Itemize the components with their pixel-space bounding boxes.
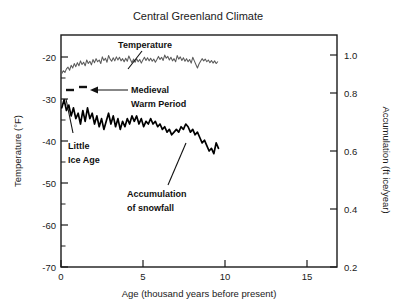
x-axis-ticks — [61, 260, 307, 267]
ytick-label: -40 — [42, 136, 56, 147]
left-axis-ticks — [61, 57, 68, 267]
chart-canvas: Central Greenland Climate -20 -30 -40 -5… — [0, 0, 395, 308]
ytick-label: -50 — [42, 178, 56, 189]
right-axis-ticks — [330, 55, 337, 267]
ytick-label: -30 — [42, 94, 56, 105]
xtick-label: 10 — [220, 271, 231, 282]
annotation-little-ice-age-line2: Ice Age — [68, 155, 100, 165]
y2tick-label: 0.2 — [344, 262, 357, 273]
y2tick-label: 0.6 — [344, 146, 357, 157]
x-axis-title: Age (thousand years before present) — [122, 288, 277, 299]
annotation-accumulation-line1: Accumulation — [127, 189, 187, 199]
annotation-temperature-label: Temperature — [118, 40, 172, 50]
annotation-little-ice-age-line1: Little — [68, 141, 90, 151]
ytick-label: -20 — [42, 52, 56, 63]
xtick-label: 0 — [58, 271, 63, 282]
xtick-label: 5 — [140, 271, 145, 282]
xtick-label: 15 — [302, 271, 313, 282]
series-line-temperature — [62, 55, 218, 73]
leader-line-accumulation — [168, 143, 186, 185]
ytick-label: -60 — [42, 220, 56, 231]
x-axis-tick-labels: 0 5 10 15 — [58, 271, 312, 282]
y2tick-label: 0.8 — [344, 88, 357, 99]
annotation-medieval-warm-period-line1: Medieval — [131, 85, 169, 95]
leader-arrow-medieval-warm-period — [90, 87, 128, 94]
right-axis-tick-labels: 0.2 0.4 0.6 0.8 1.0 — [344, 50, 357, 273]
y2-axis-title: Accumulation (ft ice/year) — [381, 106, 392, 213]
y2tick-label: 0.4 — [344, 204, 357, 215]
page-title: Central Greenland Climate — [133, 10, 263, 22]
climate-chart-figure: Central Greenland Climate -20 -30 -40 -5… — [0, 0, 395, 308]
ytick-label: -70 — [42, 262, 56, 273]
y2tick-label: 1.0 — [344, 50, 357, 61]
annotation-accumulation-line2: of snowfall — [127, 203, 174, 213]
left-axis-tick-labels: -20 -30 -40 -50 -60 -70 — [42, 52, 56, 273]
annotation-medieval-warm-period-line2: Warm Period — [131, 99, 186, 109]
plot-frame — [61, 35, 337, 267]
y-axis-title: Temperature (°F) — [12, 115, 23, 187]
